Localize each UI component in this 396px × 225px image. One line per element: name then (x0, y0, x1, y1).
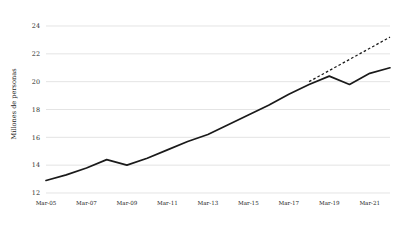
y-axis-tick-label: 16 (32, 134, 40, 142)
y-axis-title: Millones de personas (10, 68, 18, 140)
x-axis-tick-label: Mar-09 (117, 200, 138, 206)
x-axis-tick-labels: Mar-05Mar-07Mar-09Mar-11Mar-13Mar-15Mar-… (36, 200, 381, 206)
y-axis-tick-label: 18 (32, 106, 40, 114)
x-axis-tick-label: Mar-21 (359, 200, 380, 206)
x-axis-tick-label: Mar-15 (238, 200, 259, 206)
x-axis-tick-label: Mar-07 (76, 200, 97, 206)
y-axis-tick-label: 22 (32, 50, 40, 58)
y-axis-tick-label: 24 (32, 22, 40, 30)
x-axis-tick-label: Mar-05 (36, 200, 57, 206)
y-axis-tick-label: 12 (32, 189, 40, 197)
x-axis-tick-label: Mar-13 (198, 200, 219, 206)
x-axis-tick-label: Mar-19 (319, 200, 340, 206)
x-axis-tick-label: Mar-17 (278, 200, 299, 206)
y-axis-tick-label: 14 (32, 161, 40, 169)
x-axis-tick-label: Mar-11 (157, 200, 178, 206)
chart-container: 12141618202224 Mar-05Mar-07Mar-09Mar-11M… (0, 0, 396, 225)
chart-background (0, 0, 396, 225)
y-axis-tick-label: 20 (32, 78, 40, 86)
line-chart: 12141618202224 Mar-05Mar-07Mar-09Mar-11M… (0, 0, 396, 225)
